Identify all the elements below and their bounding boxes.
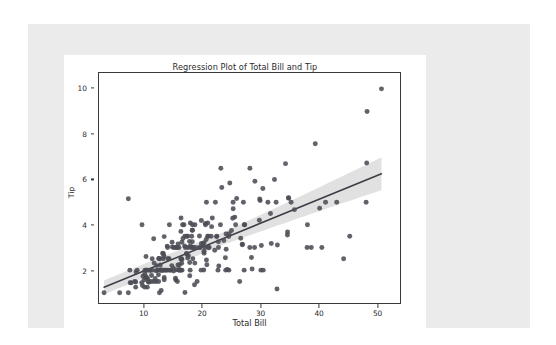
scatter-point (317, 206, 322, 211)
scatter-point (157, 290, 162, 295)
scatter-point (126, 196, 131, 201)
scatter-point (364, 200, 369, 205)
x-tick-label: 50 (373, 309, 382, 318)
scatter-point (241, 200, 246, 205)
scatter-point (174, 245, 179, 250)
scatter-point (175, 279, 180, 284)
scatter-point (192, 282, 197, 287)
scatter-point (140, 222, 145, 227)
scatter-point (247, 166, 252, 171)
x-tick-label: 30 (256, 309, 265, 318)
scatter-point (185, 245, 190, 250)
scatter-point (231, 206, 236, 211)
scatter-point (129, 280, 134, 285)
scatter-point (259, 243, 264, 248)
x-tick-mark (143, 304, 144, 308)
scatter-point (199, 268, 204, 273)
scatter-point (102, 290, 107, 295)
scatter-point (224, 247, 229, 252)
x-tick-mark (202, 304, 203, 308)
scatter-point (190, 228, 195, 233)
scatter-point (197, 233, 202, 238)
scatter-point (162, 234, 167, 239)
scatter-point (258, 268, 263, 273)
scatter-point (168, 268, 173, 273)
scatter-point (257, 197, 262, 202)
scatter-point (174, 267, 179, 272)
scatter-point (167, 222, 172, 227)
scatter-point (188, 268, 193, 273)
scatter-point (210, 216, 215, 221)
scatter-point (192, 222, 197, 227)
scatter-point (242, 222, 247, 227)
scatter-point (141, 274, 146, 279)
scatter-point (269, 241, 274, 246)
scatter-point (227, 180, 232, 185)
matplotlib-figure: Regression Plot of Total Bill and Tip Ti… (64, 55, 426, 343)
scatter-point (226, 234, 231, 239)
scatter-point (218, 166, 223, 171)
scatter-point (285, 230, 290, 235)
scatter-point (247, 245, 252, 250)
scatter-point (319, 245, 324, 250)
scatter-point (231, 200, 236, 205)
scatter-point (193, 245, 198, 250)
scatter-point (203, 222, 208, 227)
scatter-point (154, 263, 159, 268)
y-tick-label: 8 (82, 129, 87, 138)
scatter-point (156, 272, 161, 277)
scatter-point (305, 222, 310, 227)
scatter-point (159, 268, 164, 273)
scatter-point (216, 264, 221, 269)
y-tick-mark (91, 179, 95, 180)
scatter-point (286, 196, 291, 201)
scatter-point (205, 234, 210, 239)
scatter-point (161, 256, 166, 261)
scatter-point (178, 229, 183, 234)
scatter-point (274, 200, 279, 205)
y-tick-mark (91, 225, 95, 226)
x-tick-mark (260, 304, 261, 308)
scatter-point (184, 251, 189, 256)
scatter-point (242, 268, 247, 273)
scatter-point (257, 218, 262, 223)
scatter-point (238, 236, 243, 241)
scatter-point (179, 261, 184, 266)
scatter-point (165, 245, 170, 250)
scatter-point (146, 280, 151, 285)
scatter-point (213, 200, 218, 205)
scatter-point (215, 268, 220, 273)
scatter-point (275, 286, 280, 291)
scatter-point (133, 285, 138, 290)
scatter-point (233, 222, 238, 227)
scatter-point (229, 228, 234, 233)
scatter-point (170, 240, 175, 245)
scatter-point (323, 200, 328, 205)
scatter-point (162, 277, 167, 282)
scatter-point (204, 257, 209, 262)
scatter-point (179, 240, 184, 245)
scatter-point (272, 177, 277, 182)
scatter-point (142, 268, 147, 273)
scatter-point (144, 254, 149, 259)
scatter-point (182, 290, 187, 295)
scatter-point (204, 200, 209, 205)
scatter-point (179, 216, 184, 221)
y-tick-label: 2 (82, 266, 87, 275)
scatter-point (192, 261, 197, 266)
scatter-point (252, 179, 257, 184)
scatter-point (150, 256, 155, 261)
y-tick-label: 4 (82, 221, 87, 230)
scatter-point (204, 262, 209, 267)
scatter-point (190, 256, 195, 261)
scatter-point (249, 255, 254, 260)
chart-title: Regression Plot of Total Bill and Tip (64, 62, 426, 72)
scatter-point (117, 290, 122, 295)
scatter-point (142, 285, 147, 290)
scatter-point (169, 263, 174, 268)
plot-axes (98, 72, 401, 304)
scatter-point (178, 256, 183, 261)
scatter-point (223, 255, 228, 260)
scatter-point (365, 109, 370, 114)
scatter-point (252, 245, 257, 250)
